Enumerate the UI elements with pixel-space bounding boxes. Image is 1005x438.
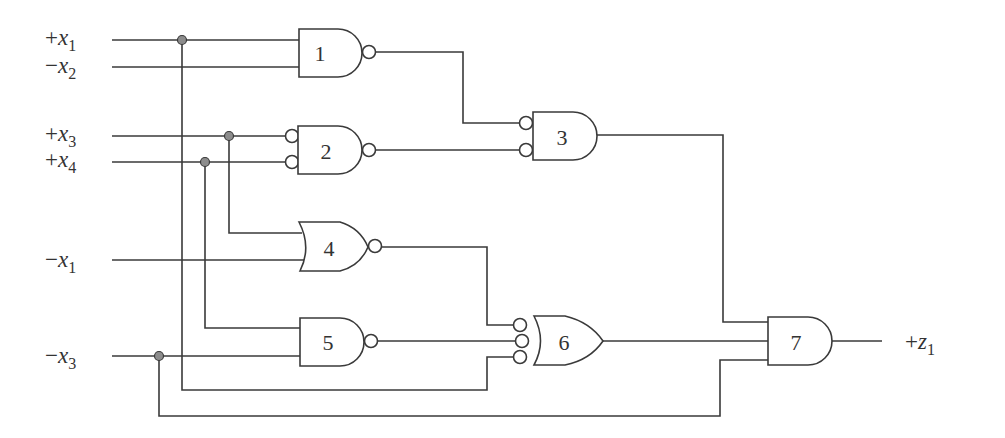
inversion-bubble-icon bbox=[286, 156, 299, 169]
and-gate-body-icon bbox=[299, 29, 362, 77]
wire-gate1-to-gate3 bbox=[376, 52, 519, 123]
wire-plus-x4-branch bbox=[205, 162, 300, 328]
inversion-bubble-icon bbox=[516, 335, 529, 348]
inversion-bubble-icon bbox=[363, 46, 376, 59]
gate-4-nor: 4 bbox=[299, 222, 382, 271]
wire-gate3-to-gate7 bbox=[597, 135, 768, 322]
junction-dot-x1 bbox=[178, 36, 187, 45]
wires bbox=[112, 40, 882, 416]
gate-label: 3 bbox=[557, 125, 568, 150]
inversion-bubble-icon bbox=[286, 130, 299, 143]
junction-dot-x3 bbox=[225, 132, 234, 141]
gate-label: 6 bbox=[559, 330, 570, 355]
junction-dot-minus-x3 bbox=[155, 352, 164, 361]
junction-dot-x4 bbox=[201, 158, 210, 167]
gate-7-and: 7 bbox=[768, 317, 832, 365]
gate-3-and-inverted-inputs: 3 bbox=[520, 112, 598, 160]
inversion-bubble-icon bbox=[363, 144, 376, 157]
logic-circuit-diagram: +x1 −x2 +x3 +x4 −x1 −x3 +z1 bbox=[0, 0, 1005, 438]
gate-2-and-inverted: 2 bbox=[286, 126, 376, 174]
inversion-bubble-icon bbox=[520, 117, 533, 130]
gate-5-nand: 5 bbox=[300, 318, 378, 366]
gate-label: 2 bbox=[321, 139, 332, 164]
circuit-schematic: 1 2 3 4 5 bbox=[0, 0, 1005, 438]
wire-minus-x3-branch bbox=[159, 356, 768, 416]
gate-label: 4 bbox=[324, 236, 335, 261]
inversion-bubble-icon bbox=[514, 351, 527, 364]
gate-label: 5 bbox=[323, 330, 334, 355]
gate-label: 1 bbox=[315, 41, 326, 66]
inversion-bubble-icon bbox=[369, 240, 382, 253]
inversion-bubble-icon bbox=[514, 319, 527, 332]
wire-plus-x3-branch bbox=[229, 136, 302, 233]
gate-6-or-inverted-inputs: 6 bbox=[514, 316, 604, 365]
gate-1-nand: 1 bbox=[299, 29, 376, 77]
inversion-bubble-icon bbox=[365, 335, 378, 348]
gate-label: 7 bbox=[791, 330, 802, 355]
wire-gate4-to-gate6 bbox=[381, 247, 514, 325]
junctions bbox=[155, 36, 234, 361]
inversion-bubble-icon bbox=[520, 144, 533, 157]
